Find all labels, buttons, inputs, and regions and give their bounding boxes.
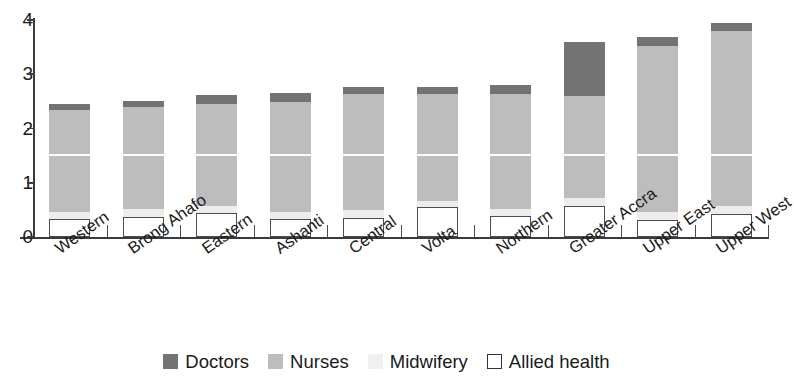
bar-separator-line <box>49 154 90 156</box>
bar-segment-doctors[interactable] <box>343 87 384 95</box>
bar-segment-midwifery[interactable] <box>490 209 531 217</box>
bar-segment-nurses[interactable] <box>343 94 384 210</box>
legend-label: Doctors <box>185 352 249 371</box>
legend-label: Nurses <box>290 352 349 371</box>
bar-segment-doctors[interactable] <box>123 101 164 107</box>
bar-segment-nurses[interactable] <box>123 107 164 209</box>
bar-separator-line <box>196 154 237 156</box>
bar-group[interactable] <box>196 95 237 237</box>
bar-group[interactable] <box>417 87 458 237</box>
bar-separator-line <box>711 154 752 156</box>
x-axis-tick-mark <box>254 225 255 238</box>
x-axis-tick-mark <box>548 225 549 238</box>
bar-segment-doctors[interactable] <box>417 87 458 94</box>
x-axis-tick-mark <box>768 225 769 238</box>
bar-segment-doctors[interactable] <box>270 93 311 102</box>
x-axis-tick-mark <box>180 225 181 238</box>
bar-segment-midwifery[interactable] <box>343 210 384 218</box>
chart-legend: DoctorsNursesMidwiferyAllied health <box>0 352 773 371</box>
bar-separator-line <box>417 154 458 156</box>
bar-segment-midwifery[interactable] <box>564 198 605 206</box>
x-axis-tick-mark <box>327 225 328 238</box>
legend-label: Allied health <box>509 352 610 371</box>
bar-group[interactable] <box>343 87 384 237</box>
bar-separator-line <box>270 154 311 156</box>
x-axis-labels: WesternBrong AhafoEasternAshantiCentralV… <box>33 243 768 343</box>
bar-group[interactable] <box>711 23 752 237</box>
legend-item[interactable]: Midwifery <box>368 352 468 371</box>
bar-segment-nurses[interactable] <box>564 96 605 199</box>
bar-separator-line <box>564 154 605 156</box>
bar-segment-doctors[interactable] <box>196 95 237 103</box>
doctors-swatch <box>163 354 178 369</box>
bar-segment-nurses[interactable] <box>270 102 311 212</box>
bar-separator-line <box>343 154 384 156</box>
x-axis-tick-mark <box>474 225 475 238</box>
bar-segment-nurses[interactable] <box>711 31 752 205</box>
bar-segment-midwifery[interactable] <box>123 209 164 217</box>
bar-separator-line <box>637 154 678 156</box>
legend-item[interactable]: Nurses <box>268 352 349 371</box>
bar-segment-nurses[interactable] <box>417 94 458 200</box>
bar-separator-line <box>490 154 531 156</box>
x-axis-tick-mark <box>621 225 622 238</box>
bar-separator-line <box>123 154 164 156</box>
x-axis-tick-mark <box>401 225 402 238</box>
x-axis-tick-mark <box>695 225 696 238</box>
legend-label: Midwifery <box>390 352 468 371</box>
bar-segment-nurses[interactable] <box>49 110 90 213</box>
legend-item[interactable]: Doctors <box>163 352 249 371</box>
bar-group[interactable] <box>564 42 605 237</box>
bar-group[interactable] <box>123 101 164 237</box>
bar-segment-doctors[interactable] <box>711 23 752 31</box>
allied-health-swatch <box>487 354 502 369</box>
nurses-swatch <box>268 354 283 369</box>
y-axis-labels: 01234 <box>0 0 33 381</box>
bar-segment-doctors[interactable] <box>490 85 531 94</box>
bar-group[interactable] <box>49 104 90 237</box>
bar-group[interactable] <box>270 93 311 237</box>
bar-segment-doctors[interactable] <box>637 37 678 46</box>
midwifery-swatch <box>368 354 383 369</box>
x-axis-tick-mark <box>107 225 108 238</box>
bar-group[interactable] <box>490 85 531 237</box>
bar-segment-nurses[interactable] <box>490 94 531 209</box>
bar-segment-doctors[interactable] <box>564 42 605 96</box>
bar-segment-doctors[interactable] <box>49 104 90 110</box>
bar-segment-midwifery[interactable] <box>417 201 458 208</box>
legend-item[interactable]: Allied health <box>487 352 610 371</box>
